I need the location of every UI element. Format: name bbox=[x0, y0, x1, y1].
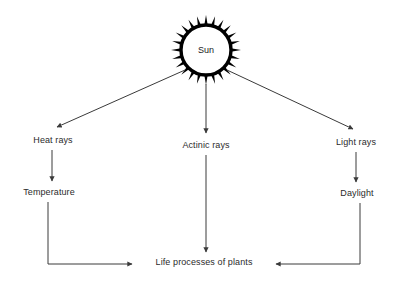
node-life-processes: Life processes of plants bbox=[156, 258, 253, 267]
sun-plant-process-diagram: Sun Heat rays Actinic rays Light rays Te… bbox=[0, 0, 399, 282]
edge-sun-to-light-rays bbox=[227, 70, 353, 129]
edge-sun-to-heat-rays bbox=[57, 70, 185, 127]
sun-label: Sun bbox=[198, 46, 214, 55]
edge-temperature-to-life bbox=[48, 202, 132, 264]
node-daylight: Daylight bbox=[340, 189, 373, 198]
node-temperature: Temperature bbox=[23, 188, 75, 197]
edge-daylight-to-life bbox=[276, 203, 360, 264]
node-actinic-rays: Actinic rays bbox=[182, 141, 229, 150]
node-light-rays: Light rays bbox=[336, 138, 376, 147]
node-heat-rays: Heat rays bbox=[33, 136, 72, 145]
